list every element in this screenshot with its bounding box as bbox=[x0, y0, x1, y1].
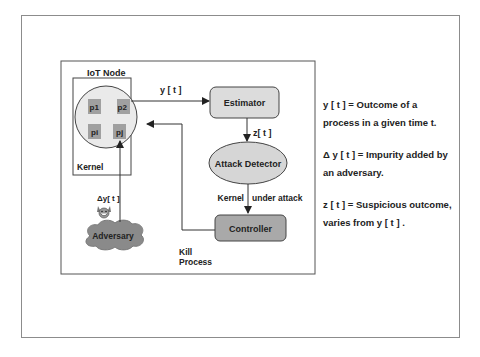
legend-panel: y [ t ] = Outcome of a process in a give… bbox=[323, 96, 453, 246]
iot-node-label: IoT Node bbox=[87, 68, 126, 78]
process-p1: p1 bbox=[88, 99, 101, 114]
edge-kill-label-line1: Kill bbox=[179, 247, 192, 257]
controller-label: Controller bbox=[229, 224, 272, 234]
edge-kill-label-line2: Process bbox=[179, 257, 212, 267]
edge-kernel-label: Kernel bbox=[218, 193, 244, 203]
svg-text:pi: pi bbox=[91, 128, 98, 137]
estimator-node: Estimator bbox=[210, 87, 279, 118]
controller-node: Controller bbox=[215, 215, 286, 241]
adversary-node: Adversary bbox=[86, 220, 143, 250]
edge-y-label: y [ t ] bbox=[160, 85, 182, 95]
edge-kill-process-arrow bbox=[147, 124, 215, 230]
iot-node: IoT Node p1 p2 pi pj Kernel bbox=[73, 68, 137, 175]
estimator-label: Estimator bbox=[224, 98, 266, 108]
adversary-label: Adversary bbox=[92, 231, 134, 241]
kernel-circle bbox=[75, 86, 137, 148]
kernel-label: Kernel bbox=[77, 162, 103, 172]
legend-item-z: z [ t ] = Suspicious outcome, varies fro… bbox=[323, 196, 453, 232]
edge-under-attack-label: under attack bbox=[252, 193, 303, 203]
svg-text:p2: p2 bbox=[118, 103, 128, 112]
svg-text:p1: p1 bbox=[90, 103, 100, 112]
process-p2: p2 bbox=[117, 99, 130, 114]
legend-item-y: y [ t ] = Outcome of a process in a give… bbox=[323, 96, 453, 132]
edge-z-label: z[ t ] bbox=[253, 128, 272, 138]
devil-face-icon bbox=[97, 206, 111, 218]
process-pj: pj bbox=[113, 124, 126, 139]
process-pi: pi bbox=[88, 124, 101, 139]
edge-delta-y-label: Δy[ t ] bbox=[97, 194, 120, 203]
attack-detector-label: Attack Detector bbox=[215, 159, 282, 169]
svg-text:pj: pj bbox=[116, 128, 123, 137]
attack-detector-node: Attack Detector bbox=[209, 142, 287, 184]
legend-item-delta-y: Δ y [ t ] = Impurity added by an adversa… bbox=[323, 146, 453, 182]
